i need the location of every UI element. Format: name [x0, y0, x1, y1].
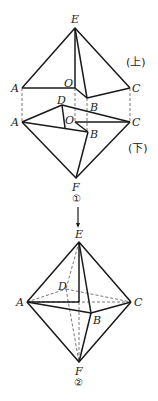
label-B1-lower: B — [89, 128, 98, 141]
figure1-caption: ① — [72, 193, 81, 204]
label-A2: A — [15, 296, 24, 309]
label-O1-lower: O — [65, 114, 74, 127]
figure1-lower-pyramid — [22, 105, 130, 178]
label-E2: E — [74, 228, 83, 241]
lower-label: (下) — [128, 142, 148, 155]
label-B2: B — [92, 314, 101, 327]
label-E1: E — [70, 13, 79, 26]
figure2-caption: ② — [74, 377, 83, 388]
upper-label: (上) — [126, 56, 146, 69]
label-A1-lower: A — [10, 116, 19, 129]
figure1-guides — [22, 88, 130, 132]
figure2-octahedron — [27, 242, 131, 362]
label-D2: D — [57, 280, 67, 293]
label-B1: B — [89, 101, 98, 114]
down-arrow-icon — [76, 207, 80, 228]
label-C2: C — [134, 296, 143, 309]
geometry-diagram: E A O B C (上) D A O B C (下) F ① E A D B … — [0, 0, 158, 401]
label-D1: D — [56, 94, 66, 107]
figure1-upper-pyramid — [22, 28, 130, 98]
label-O1: O — [64, 77, 73, 90]
label-C1: C — [132, 82, 141, 95]
label-A1: A — [10, 82, 19, 95]
label-C1-lower: C — [132, 116, 141, 129]
